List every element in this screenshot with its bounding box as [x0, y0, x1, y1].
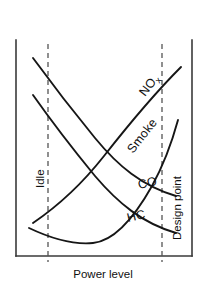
curve-label-smoke: Smoke — [124, 116, 160, 156]
emissions-vs-power-level-figure: NOx Smoke CO HC Idle Design point Power … — [0, 0, 206, 288]
chart-canvas: NOx Smoke CO HC Idle Design point Power … — [0, 0, 206, 288]
marker-label-design-point-text: Design point — [171, 175, 183, 240]
svg-text:NOx: NOx — [136, 71, 163, 100]
curve-label-hc: HC — [126, 207, 147, 225]
marker-label-design-point: Design point — [171, 175, 183, 240]
curve-label-co: CO — [137, 174, 159, 192]
curve-label-smoke-text: Smoke — [124, 116, 160, 156]
curve-label-nox: NOx — [136, 71, 163, 100]
x-axis-title: Power level — [73, 268, 132, 280]
marker-label-idle: Idle — [34, 169, 46, 188]
curve-label-co-text: CO — [137, 174, 159, 192]
curve-hc — [33, 95, 176, 233]
curve-label-hc-text: HC — [126, 207, 147, 225]
curve-nox — [33, 67, 181, 223]
marker-label-idle-text: Idle — [34, 169, 46, 188]
